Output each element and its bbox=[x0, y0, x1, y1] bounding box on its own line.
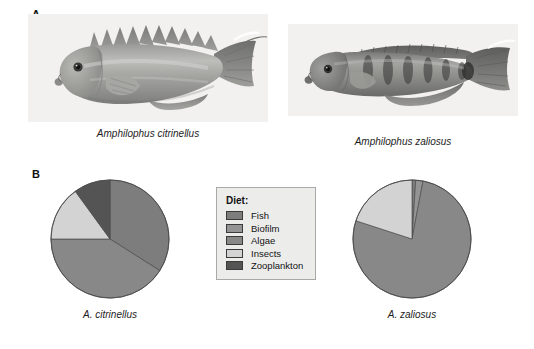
pie-block-citrinellus: A. citrinellus bbox=[42, 178, 178, 320]
panel-b: B A. citrinellus Diet: FishBiofilmAlgaeI… bbox=[0, 160, 534, 349]
legend-title: Diet: bbox=[226, 195, 307, 206]
legend-label-fish: Fish bbox=[251, 211, 269, 221]
species-caption-zaliosus: Amphilophus zaliosus bbox=[288, 136, 518, 147]
legend-item-insects: Insects bbox=[226, 249, 307, 259]
pie-caption-citrinellus: A. citrinellus bbox=[42, 309, 178, 320]
legend-item-fish: Fish bbox=[226, 211, 307, 221]
legend-label-biofilm: Biofilm bbox=[251, 224, 280, 234]
panel-a: A bbox=[0, 0, 534, 160]
specimen-zaliosus: Amphilophus zaliosus bbox=[288, 24, 518, 147]
pie-block-zaliosus: A. zaliosus bbox=[344, 178, 480, 320]
pie-chart-zaliosus bbox=[351, 178, 473, 300]
legend-swatch-fish bbox=[226, 211, 243, 220]
legend-swatch-algae bbox=[226, 236, 243, 245]
legend-label-zooplankton: Zooplankton bbox=[251, 261, 303, 271]
legend-label-algae: Algae bbox=[251, 236, 275, 246]
species-caption-citrinellus: Amphilophus citrinellus bbox=[28, 128, 268, 139]
specimen-citrinellus: Amphilophus citrinellus bbox=[28, 14, 268, 139]
pie-chart-citrinellus bbox=[49, 178, 171, 300]
panel-b-letter: B bbox=[32, 168, 40, 180]
fish-photo-icon bbox=[28, 14, 268, 122]
legend-item-zooplankton: Zooplankton bbox=[226, 261, 307, 271]
legend-item-biofilm: Biofilm bbox=[226, 224, 307, 234]
legend-swatch-biofilm bbox=[226, 224, 243, 233]
pie-caption-zaliosus: A. zaliosus bbox=[344, 309, 480, 320]
fish-photo-icon bbox=[288, 24, 518, 116]
diet-legend: Diet: FishBiofilmAlgaeInsectsZooplankton bbox=[216, 187, 316, 280]
legend-item-algae: Algae bbox=[226, 236, 307, 246]
legend-item-list: FishBiofilmAlgaeInsectsZooplankton bbox=[226, 211, 307, 271]
legend-swatch-zooplankton bbox=[226, 261, 243, 270]
legend-label-insects: Insects bbox=[251, 249, 281, 259]
legend-swatch-insects bbox=[226, 249, 243, 258]
figure-root: A bbox=[0, 0, 534, 349]
